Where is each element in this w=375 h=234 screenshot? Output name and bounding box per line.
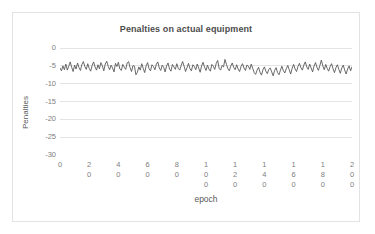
x-tick-label: 20	[83, 160, 95, 180]
x-tick-digit: 2	[83, 160, 95, 170]
x-tick-digit: 1	[258, 160, 270, 170]
y-tick-label: -20	[18, 115, 56, 123]
y-tick-label: -10	[18, 80, 56, 88]
y-tick-label: -15	[18, 98, 56, 106]
x-tick-label: 0	[54, 160, 66, 170]
x-tick-digit: 0	[142, 170, 154, 180]
x-tick-digit: 2	[229, 170, 241, 180]
x-tick-digit: 2	[346, 160, 358, 170]
plot-svg	[60, 48, 352, 155]
x-tick-digit: 0	[83, 170, 95, 180]
x-tick-digit: 0	[171, 170, 183, 180]
plot-area	[60, 48, 352, 155]
x-tick-label: 40	[112, 160, 124, 180]
x-tick-label: 60	[142, 160, 154, 180]
x-tick-digit: 0	[200, 170, 212, 180]
chart-container: Penalties on actual equipment Penalties …	[0, 0, 375, 234]
x-tick-digit: 0	[54, 160, 66, 170]
y-tick-label: 0	[18, 44, 56, 52]
x-tick-digit: 1	[229, 160, 241, 170]
x-tick-digit: 8	[171, 160, 183, 170]
y-axis-tick-labels: 0-5-10-15-20-25-30	[18, 48, 56, 155]
x-tick-digit: 0	[112, 170, 124, 180]
x-tick-label: 100	[200, 160, 212, 190]
x-tick-digit: 1	[200, 160, 212, 170]
y-tick-label: -5	[18, 62, 56, 70]
x-axis-title: epoch	[60, 194, 352, 204]
x-tick-digit: 8	[317, 170, 329, 180]
x-tick-digit: 0	[346, 170, 358, 180]
x-tick-digit: 0	[200, 180, 212, 190]
series-line-penalties	[60, 59, 352, 75]
x-tick-digit: 0	[317, 180, 329, 190]
x-tick-digit: 6	[288, 170, 300, 180]
chart-title: Penalties on actual equipment	[12, 24, 360, 34]
x-tick-digit: 0	[346, 180, 358, 190]
x-tick-digit: 1	[288, 160, 300, 170]
x-tick-digit: 4	[112, 160, 124, 170]
x-tick-digit: 1	[317, 160, 329, 170]
x-tick-digit: 4	[258, 170, 270, 180]
x-tick-label: 200	[346, 160, 358, 190]
x-tick-digit: 0	[229, 180, 241, 190]
y-tick-label: -25	[18, 133, 56, 141]
x-axis-tick-labels: 020406080100120140160180200	[60, 160, 352, 194]
x-tick-label: 140	[258, 160, 270, 190]
x-tick-label: 80	[171, 160, 183, 180]
x-tick-label: 180	[317, 160, 329, 190]
gridlines	[60, 48, 352, 155]
x-tick-label: 160	[288, 160, 300, 190]
x-tick-digit: 6	[142, 160, 154, 170]
x-tick-digit: 0	[258, 180, 270, 190]
y-tick-label: -30	[18, 151, 56, 159]
x-tick-label: 120	[229, 160, 241, 190]
x-tick-digit: 0	[288, 180, 300, 190]
